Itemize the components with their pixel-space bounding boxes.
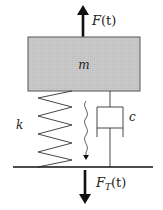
spring-label: k [16, 118, 23, 132]
applied-force-label: F(t) [91, 13, 116, 28]
mass-label: m [78, 58, 89, 72]
mass-spring-damper-diagram: F(t) m k c FT(t) [0, 0, 163, 210]
damper-label: c [129, 110, 136, 124]
spring [38, 91, 72, 167]
damper [97, 91, 123, 167]
transmitted-force-label: FT(t) [95, 175, 126, 192]
transmission-wave-arrow [83, 101, 89, 160]
applied-force-arrow [77, 5, 89, 37]
transmitted-force-arrow [79, 170, 91, 204]
